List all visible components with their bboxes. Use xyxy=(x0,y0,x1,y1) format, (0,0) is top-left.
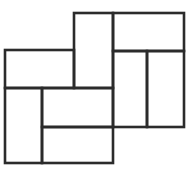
tile-face-right-inner-vertical xyxy=(113,51,147,127)
tile-face-upper-left-horizontal xyxy=(5,50,74,88)
tile-face-right-outer-vertical xyxy=(147,51,184,127)
tiling-diagram xyxy=(0,0,193,178)
tile-face-bottom-center-horizontal xyxy=(42,127,113,163)
tiling-figure xyxy=(0,0,193,178)
tile-face-center-horizontal xyxy=(42,88,113,127)
tile-face-bottom-left-vertical xyxy=(5,88,42,163)
tile-face-top-right-horizontal xyxy=(113,13,184,51)
tile-face-top-center-vertical xyxy=(74,13,113,88)
